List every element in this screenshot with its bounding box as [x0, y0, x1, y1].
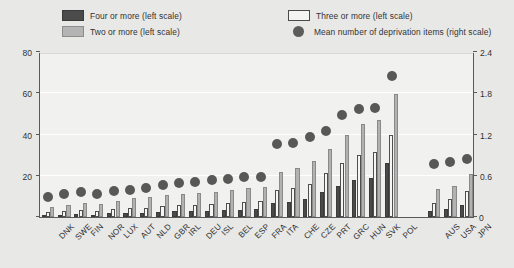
mean-deprivation-dot [445, 157, 455, 167]
left-tick [36, 51, 40, 52]
left-tick-label: 20 [2, 172, 32, 182]
mean-deprivation-dot [141, 183, 151, 193]
chart-root: Four or more (left scale) Two or more (l… [0, 0, 514, 268]
legend-item-four-or-more: Four or more (left scale) [62, 10, 182, 21]
legend-label-two-or-more: Two or more (left scale) [90, 27, 180, 37]
x-tick-label-usa: USA [459, 222, 478, 241]
mean-deprivation-dot [305, 132, 315, 142]
x-tick-label-che: CHE [303, 222, 322, 241]
mean-deprivation-dot [354, 104, 364, 114]
bar-two-or-more [328, 149, 332, 217]
bar-group [269, 53, 285, 217]
mean-deprivation-dot [76, 187, 86, 197]
mean-deprivation-dot [223, 174, 233, 184]
mean-deprivation-dot [387, 71, 397, 81]
x-tick-label-cze: CZE [319, 222, 337, 240]
bar-group [318, 53, 334, 217]
bar-two-or-more [214, 192, 218, 217]
bar-group [367, 53, 383, 217]
bar-group [154, 53, 170, 217]
bar-group [56, 53, 72, 217]
bar-two-or-more [246, 188, 250, 217]
x-tick-label-pol: POL [400, 222, 418, 240]
bar-two-or-more [132, 198, 136, 217]
mean-deprivation-dot [256, 172, 266, 182]
bar-group [105, 53, 121, 217]
bar-group [187, 53, 203, 217]
legend-item-mean-deprivation: Mean number of deprivation items (right … [288, 26, 491, 37]
left-tick-label: 60 [2, 89, 32, 99]
x-tick-label-esp: ESP [253, 222, 271, 240]
bar-two-or-more [312, 161, 316, 217]
bar-group [285, 53, 301, 217]
bar-two-or-more [148, 197, 152, 217]
mean-deprivation-dot [158, 180, 168, 190]
bar-two-or-more [50, 207, 54, 217]
x-tick-label-svk: SVK [384, 222, 402, 240]
gray-square-swatch-icon [62, 26, 84, 37]
mean-deprivation-dot [370, 103, 380, 113]
left-tick [36, 92, 40, 93]
gray-circle-marker-icon [288, 26, 308, 37]
right-tick-label: 1.2 [480, 131, 510, 141]
bar-group [236, 53, 252, 217]
plot-area [39, 53, 474, 218]
left-tick-label: 80 [2, 48, 32, 58]
mean-deprivation-dot [92, 189, 102, 199]
bar-two-or-more [279, 172, 283, 217]
mean-deprivation-dot [43, 192, 53, 202]
bar-group [122, 53, 138, 217]
bar-group [426, 53, 442, 217]
bar-two-or-more [377, 120, 381, 217]
bar-groups [40, 53, 473, 217]
bar-two-or-more [83, 203, 87, 217]
x-tick-label-fin: FIN [89, 222, 105, 238]
bar-group [73, 53, 89, 217]
right-tick-label: 1.8 [480, 89, 510, 99]
x-tick-label-aut: AUT [139, 222, 157, 240]
mean-deprivation-dot [125, 185, 135, 195]
mean-deprivation-dot [239, 172, 249, 182]
bar-group [383, 53, 399, 217]
mean-deprivation-dot [288, 138, 298, 148]
x-tick-label-jpn: JPN [475, 222, 493, 240]
bar-group [89, 53, 105, 217]
bar-group [171, 53, 187, 217]
right-tick [473, 51, 477, 52]
mean-deprivation-dot [207, 175, 217, 185]
bar-two-or-more [436, 189, 440, 217]
bar-two-or-more [181, 194, 185, 217]
dark-square-swatch-icon [62, 10, 84, 21]
legend-item-two-or-more: Two or more (left scale) [62, 26, 180, 37]
mean-deprivation-dot [462, 154, 472, 164]
bar-two-or-more [394, 94, 398, 217]
x-tick-label-nld: NLD [155, 222, 173, 240]
bar-two-or-more [99, 204, 103, 217]
x-tick-label-ita: ITA [285, 222, 300, 237]
x-tick-label-irl: IRL [187, 222, 203, 238]
x-tick-label-isl: ISL [219, 222, 234, 237]
x-tick-label-bel: BEL [237, 222, 255, 240]
right-tick [473, 92, 477, 93]
x-tick-label-aus: AUS [443, 222, 462, 241]
right-tick [473, 134, 477, 135]
left-tick [36, 175, 40, 176]
legend-label-mean-deprivation: Mean number of deprivation items (right … [314, 27, 491, 37]
bar-group [138, 53, 154, 217]
left-tick [36, 216, 40, 217]
chart-legend: Four or more (left scale) Two or more (l… [0, 0, 514, 46]
white-square-swatch-icon [288, 10, 310, 21]
bar-group [459, 53, 475, 217]
mean-deprivation-dot [174, 178, 184, 188]
bar-two-or-more [469, 174, 473, 217]
bar-group [334, 53, 350, 217]
bar-two-or-more [263, 187, 267, 217]
mean-deprivation-dot [190, 177, 200, 187]
left-tick-label: 40 [2, 131, 32, 141]
bar-group [253, 53, 269, 217]
bar-two-or-more [66, 205, 70, 217]
bar-two-or-more [295, 168, 299, 218]
bar-two-or-more [452, 186, 456, 217]
bar-two-or-more [116, 201, 120, 218]
mean-deprivation-dot [59, 189, 69, 199]
